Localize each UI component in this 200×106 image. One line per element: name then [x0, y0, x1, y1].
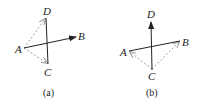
panel-b: D A B C (b) [119, 8, 189, 99]
dashed-vector-a-to-d [24, 19, 45, 48]
label-c: C [44, 66, 52, 78]
label-b: B [78, 30, 85, 42]
segment-a-b [129, 41, 180, 51]
dashed-vector-a-to-c [24, 48, 47, 63]
label-a: A [119, 46, 127, 58]
dashed-vector-c-to-a [130, 52, 152, 69]
panel-a: D A B C (a) [14, 5, 85, 99]
vector-diagram: D A B C (a) D A B C (b) [0, 0, 200, 106]
label-b: B [182, 36, 189, 48]
label-a: A [14, 43, 22, 55]
label-c: C [148, 70, 156, 82]
caption-b: (b) [146, 87, 158, 99]
segment-d-c [46, 18, 48, 64]
label-d: D [146, 8, 155, 20]
label-d: D [42, 5, 51, 17]
caption-a: (a) [43, 87, 54, 99]
vector-c-to-d [151, 22, 152, 70]
vector-a-to-b [24, 37, 76, 48]
